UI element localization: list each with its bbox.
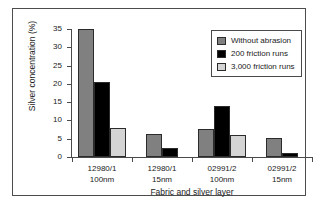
y-tick-label: 35 xyxy=(53,23,62,34)
x-tick-mark xyxy=(132,158,133,162)
category-label-line: 100nm xyxy=(192,175,252,186)
category-label-line: 100nm xyxy=(72,175,132,186)
bar xyxy=(78,29,94,157)
y-tick-mark xyxy=(67,139,71,140)
figure-frame: 05101520253035 12980/1100nm12980/115nm02… xyxy=(12,8,306,196)
legend-item: 3,000 friction runs xyxy=(217,61,295,72)
bar xyxy=(282,153,298,157)
x-tick-mark xyxy=(252,158,253,162)
y-tick-mark xyxy=(67,47,71,48)
category-label: 12980/115nm xyxy=(132,164,192,185)
y-tick-mark xyxy=(67,120,71,121)
bar xyxy=(110,128,126,157)
bar xyxy=(214,106,230,157)
legend-label: 3,000 friction runs xyxy=(231,62,295,71)
y-tick-label: 30 xyxy=(53,41,62,52)
bar-group xyxy=(72,29,132,157)
y-tick-mark xyxy=(67,102,71,103)
y-tick-label: 10 xyxy=(53,114,62,125)
bar xyxy=(94,82,110,157)
x-tick-mark xyxy=(72,158,73,162)
y-tick-mark xyxy=(67,157,71,158)
x-tick-mark xyxy=(312,158,313,162)
legend-swatch-icon xyxy=(217,50,226,58)
legend-item: Without abrasion xyxy=(217,35,295,46)
legend-item: 200 friction runs xyxy=(217,48,295,59)
legend-swatch-icon xyxy=(217,37,226,45)
y-tick-label: 25 xyxy=(53,60,62,71)
category-label-line: 02991/2 xyxy=(192,164,252,175)
bar xyxy=(266,138,282,157)
bar xyxy=(146,134,162,157)
chart-legend: Without abrasion200 friction runs3,000 f… xyxy=(211,30,302,77)
legend-label: Without abrasion xyxy=(231,36,291,45)
legend-label: 200 friction runs xyxy=(231,49,288,58)
category-label-line: 12980/1 xyxy=(72,164,132,175)
y-tick-label: 15 xyxy=(53,96,62,107)
y-tick-mark xyxy=(67,84,71,85)
category-label-line: 15nm xyxy=(252,175,312,186)
category-label-line: 15nm xyxy=(132,175,192,186)
x-axis-title: Fabric and silver layer xyxy=(71,187,313,197)
y-axis-title: Silver concentration (%) xyxy=(27,11,37,121)
figure-canvas: 05101520253035 12980/1100nm12980/115nm02… xyxy=(0,0,323,209)
bar xyxy=(198,129,214,157)
category-label-line: 12980/1 xyxy=(132,164,192,175)
bar xyxy=(162,148,178,158)
y-tick-label: 0 xyxy=(58,151,62,162)
category-label-line: 02991/2 xyxy=(252,164,312,175)
bar-group xyxy=(132,29,192,157)
y-tick-label: 5 xyxy=(58,133,62,144)
y-tick-mark xyxy=(67,29,71,30)
category-label: 12980/1100nm xyxy=(72,164,132,185)
y-tick-mark xyxy=(67,66,71,67)
y-tick-label: 20 xyxy=(53,78,62,89)
bar xyxy=(230,135,246,157)
category-label: 02991/215nm xyxy=(252,164,312,185)
legend-swatch-icon xyxy=(217,63,226,71)
x-tick-mark xyxy=(192,158,193,162)
category-label: 02991/2100nm xyxy=(192,164,252,185)
